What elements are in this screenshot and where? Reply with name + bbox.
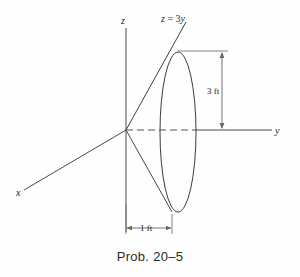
ellipse-outline [160, 52, 196, 212]
radius-arrow-left [127, 226, 133, 230]
cone-base-ellipse [160, 52, 196, 212]
equation-operator: = 3 [165, 13, 181, 24]
x-axis-label: x [15, 187, 21, 198]
radius-dimension: 1 ft [126, 204, 172, 234]
figure-caption: Prob. 20–5 [0, 249, 300, 264]
height-dimension: 3 ft [178, 51, 228, 129]
height-dimension-label: 3 ft [207, 86, 220, 96]
height-arrow-up [220, 52, 225, 58]
figure-container: 3 ft 1 ft z y x z = 3y Prob. 20–5 [0, 0, 300, 277]
radius-arrow-right [166, 226, 172, 230]
z-axis-label: z [120, 15, 125, 26]
height-arrow-down [220, 123, 225, 129]
radius-dimension-label: 1 ft [140, 223, 153, 233]
diagram-svg: 3 ft 1 ft z y x z = 3y [0, 0, 300, 277]
y-axis-label: y [274, 125, 280, 136]
x-axis [24, 130, 126, 190]
cone-generators [126, 22, 186, 212]
equation-label: z = 3y [160, 13, 186, 24]
equation-y-term: y [180, 13, 186, 24]
cone-upper-generator-z-equals-3y [126, 22, 186, 130]
x-axis-line [24, 130, 126, 190]
cone-lower-generator [126, 130, 172, 212]
